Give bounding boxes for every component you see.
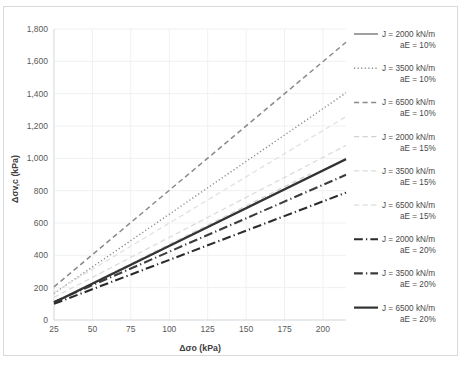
- y-tick-label: 1,200: [27, 121, 49, 131]
- series-line-1: [54, 93, 346, 293]
- legend-label-line2-2: aE = 10%: [400, 109, 436, 118]
- x-tick-label: 150: [239, 324, 253, 334]
- series-line-2: [54, 42, 346, 287]
- legend-label-line1-1: J = 3500 kN/m: [382, 64, 435, 73]
- x-axis-title: Δσo (kPa): [179, 343, 221, 353]
- data-series-layer: [54, 42, 346, 304]
- legend-label-line2-5: aE = 15%: [400, 212, 436, 221]
- legend-label-line1-6: J = 2000 kN/m: [382, 235, 435, 244]
- legend-label-line1-8: J = 6500 kN/m: [382, 304, 435, 313]
- legend-label-line2-6: aE = 20%: [400, 246, 436, 255]
- legend-label-line1-2: J = 6500 kN/m: [382, 98, 435, 107]
- y-tick-label: 600: [34, 218, 48, 228]
- legend-label-line1-7: J = 3500 kN/m: [382, 269, 435, 278]
- gridlines: [54, 29, 346, 320]
- y-axis-title: Δσv,c (kPa): [10, 155, 20, 203]
- legend-label-line2-3: aE = 15%: [400, 144, 436, 153]
- line-chart: 255075100125150175200 02004006008001,000…: [4, 7, 459, 357]
- y-tick-label: 1,400: [27, 89, 49, 99]
- legend-label-line1-4: J = 3500 kN/m: [382, 167, 435, 176]
- y-axis-tick-labels: 02004006008001,0001,2001,4001,6001,800: [27, 24, 49, 325]
- series-line-5: [54, 117, 346, 293]
- x-tick-label: 25: [49, 324, 59, 334]
- legend-label-line2-8: aE = 20%: [400, 315, 436, 324]
- series-line-4: [54, 145, 346, 297]
- x-tick-label: 175: [277, 324, 291, 334]
- legend-label-line2-0: aE = 10%: [400, 41, 436, 50]
- series-line-7: [54, 175, 346, 302]
- chart-legend: J = 2000 kN/maE = 10%J = 3500 kN/maE = 1…: [354, 30, 436, 324]
- x-tick-label: 75: [126, 324, 136, 334]
- y-tick-label: 1,800: [27, 24, 49, 34]
- legend-label-line1-3: J = 2000 kN/m: [382, 133, 435, 142]
- x-tick-label: 125: [201, 324, 215, 334]
- y-tick-label: 200: [34, 283, 48, 293]
- y-tick-label: 400: [34, 250, 48, 260]
- y-tick-label: 1,600: [27, 56, 49, 66]
- y-tick-label: 0: [43, 315, 48, 325]
- x-tick-label: 200: [316, 324, 330, 334]
- legend-label-line2-7: aE = 20%: [400, 280, 436, 289]
- y-tick-label: 800: [34, 186, 48, 196]
- legend-label-line2-4: aE = 15%: [400, 178, 436, 187]
- y-tick-label: 1,000: [27, 153, 49, 163]
- legend-label-line1-5: J = 6500 kN/m: [382, 201, 435, 210]
- legend-label-line1-0: J = 2000 kN/m: [382, 30, 435, 39]
- x-tick-label: 50: [88, 324, 98, 334]
- series-line-6: [54, 193, 346, 304]
- x-axis-tick-labels: 255075100125150175200: [49, 324, 330, 334]
- chart-container: 255075100125150175200 02004006008001,000…: [3, 6, 458, 356]
- legend-label-line2-1: aE = 10%: [400, 75, 436, 84]
- x-tick-label: 100: [162, 324, 176, 334]
- series-line-8: [54, 159, 346, 302]
